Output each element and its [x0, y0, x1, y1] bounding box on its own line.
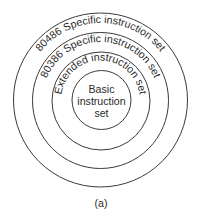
core-label-line-3: set — [94, 107, 108, 119]
figure-caption: (a) — [95, 197, 108, 209]
instruction-set-diagram: 80486 Specific instruction set 80386 Spe… — [0, 0, 197, 219]
core-label-line-2: instruction — [77, 95, 125, 107]
core-label-line-1: Basic — [89, 83, 116, 95]
